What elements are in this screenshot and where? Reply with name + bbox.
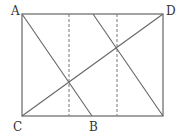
label-b: B [89, 120, 98, 134]
geometry-diagram: A D C B [0, 0, 181, 135]
label-c: C [13, 120, 22, 134]
segment-ab [22, 14, 92, 116]
segment-slant-right [93, 14, 163, 116]
label-a: A [10, 4, 20, 18]
label-d: D [166, 4, 176, 18]
segment-cd [22, 14, 163, 116]
